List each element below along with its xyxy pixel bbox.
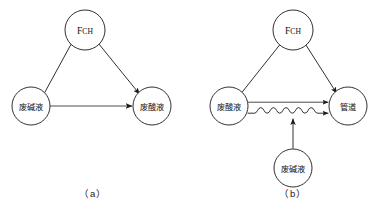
node-b-fch-label: FCH xyxy=(285,26,301,36)
edge-b-left-to-top xyxy=(242,44,280,92)
node-b-pipeline-label: 管道 xyxy=(340,102,356,112)
node-a-waste-alkali[interactable]: 废碱液 xyxy=(12,87,50,125)
node-b-waste-acid[interactable]: 废酸液 xyxy=(210,87,248,125)
node-b-waste-alkali-label: 废碱液 xyxy=(281,164,305,174)
edge-b-left-to-right-wavy xyxy=(248,108,329,114)
caption-b: （b） xyxy=(279,188,306,199)
panel-a: FCH 废碱液 废酸液 （a） xyxy=(12,10,171,199)
panel-b: FCH 废酸液 管道 废碱液 （b） xyxy=(210,10,367,199)
node-b-fch[interactable]: FCH xyxy=(273,10,313,50)
node-b-pipeline[interactable]: 管道 xyxy=(329,87,367,125)
node-a-waste-alkali-label: 废碱液 xyxy=(19,102,43,112)
node-b-waste-acid-label: 废酸液 xyxy=(217,102,241,112)
node-a-fch[interactable]: FCH xyxy=(65,10,105,50)
node-a-waste-acid[interactable]: 废酸液 xyxy=(133,87,171,125)
edge-b-top-to-right xyxy=(305,44,337,94)
caption-a: （a） xyxy=(79,188,106,199)
edge-a-top-to-right xyxy=(98,43,139,94)
figure-root: FCH 废碱液 废酸液 （a） xyxy=(0,0,382,211)
edge-a-left-to-top xyxy=(45,44,72,93)
node-a-waste-acid-label: 废酸液 xyxy=(140,102,164,112)
diagram-canvas: FCH 废碱液 废酸液 （a） xyxy=(0,0,382,211)
node-b-waste-alkali[interactable]: 废碱液 xyxy=(274,149,312,187)
node-a-fch-label: FCH xyxy=(77,26,93,36)
